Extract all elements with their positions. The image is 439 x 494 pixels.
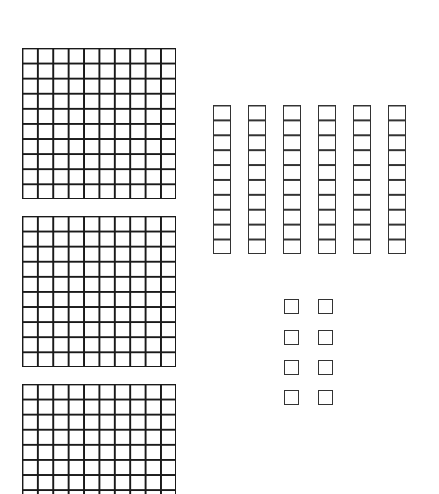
tens-rod-5	[353, 105, 371, 254]
tens-rod-4	[318, 105, 336, 254]
unit-cube-3	[284, 330, 299, 345]
unit-cube-7	[284, 390, 299, 405]
unit-cube-5	[284, 360, 299, 375]
hundreds-flat-2	[22, 216, 176, 367]
tens-rod-2	[248, 105, 266, 254]
tens-rod-6	[388, 105, 406, 254]
unit-cube-1	[284, 299, 299, 314]
unit-cube-6	[318, 360, 333, 375]
hundreds-flat-1	[22, 48, 176, 199]
tens-rod-1	[213, 105, 231, 254]
unit-cube-8	[318, 390, 333, 405]
unit-cube-4	[318, 330, 333, 345]
tens-rod-3	[283, 105, 301, 254]
unit-cube-2	[318, 299, 333, 314]
hundreds-flat-3	[22, 384, 176, 494]
